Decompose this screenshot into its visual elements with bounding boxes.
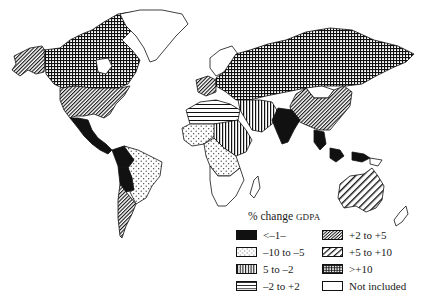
dots-swatch-icon bbox=[236, 247, 257, 257]
vertical-lines-swatch-icon bbox=[236, 264, 257, 274]
solid-black-swatch-icon bbox=[236, 230, 257, 240]
region-papua bbox=[370, 158, 382, 166]
legend-label: +5 to +10 bbox=[349, 246, 392, 258]
legend-label: +2 to +5 bbox=[349, 229, 386, 241]
region-alaska bbox=[12, 46, 46, 76]
horizontal-lines-swatch-icon bbox=[236, 281, 257, 291]
wide-diagonal-swatch-icon bbox=[322, 247, 343, 257]
legend-item-minus10-to-minus5: –10 to –5 bbox=[236, 245, 305, 258]
legend-item-plus2-to-plus5: +2 to +5 bbox=[322, 228, 386, 241]
region-indonesia-east bbox=[352, 152, 370, 162]
legend-title-small: GDPA bbox=[296, 212, 320, 222]
legend-item-lt-minus-1: <–1– bbox=[236, 228, 286, 241]
legend-title: % change GDPA bbox=[248, 210, 320, 222]
blank-swatch-icon bbox=[322, 281, 343, 291]
region-western-europe bbox=[196, 76, 216, 96]
legend-label: >+10 bbox=[349, 263, 372, 275]
region-north-africa bbox=[186, 100, 240, 124]
region-usa bbox=[60, 86, 130, 118]
legend-label: 5 to –2 bbox=[263, 263, 294, 275]
region-southeast-asia bbox=[314, 130, 326, 150]
legend-label: Not included bbox=[349, 280, 406, 292]
legend-item-minus2-to-plus2: –2 to +2 bbox=[236, 279, 300, 292]
legend-item-gt-plus10: >+10 bbox=[322, 262, 372, 275]
legend: % change GDPA <–1– –10 to –5 5 to –2 –2 … bbox=[236, 208, 426, 300]
crosshatch-swatch-icon bbox=[322, 264, 343, 274]
region-indonesia bbox=[330, 148, 344, 162]
legend-label: <–1– bbox=[263, 229, 286, 241]
legend-item-plus5-to-plus10: +5 to +10 bbox=[322, 245, 392, 258]
legend-label: –2 to +2 bbox=[263, 280, 300, 292]
region-australia bbox=[338, 168, 384, 212]
dense-diagonal-swatch-icon bbox=[322, 230, 343, 240]
legend-item-not-included: Not included bbox=[322, 279, 406, 292]
legend-title-main: % change bbox=[248, 210, 296, 222]
legend-label: –10 to –5 bbox=[263, 246, 305, 258]
region-mexico-central-america bbox=[70, 118, 112, 154]
legend-item-5-to-minus2: 5 to –2 bbox=[236, 262, 294, 275]
region-madagascar bbox=[250, 176, 260, 198]
